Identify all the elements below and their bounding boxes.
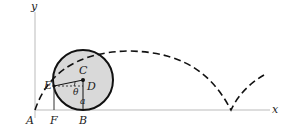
label-theta: θ [73, 87, 79, 97]
label-x-axis: x [272, 103, 279, 116]
label-d-point: D [86, 80, 96, 93]
label-f-point: F [49, 114, 58, 127]
cycloid-diagram: y x A F B C D E θ a [0, 0, 286, 130]
label-a-point: A [25, 114, 34, 127]
label-radius-a: a [80, 96, 85, 106]
point-e [53, 85, 56, 88]
label-y-axis: y [30, 0, 38, 13]
label-b-point: B [78, 114, 87, 127]
label-c-point: C [79, 64, 88, 77]
point-c [81, 78, 85, 82]
label-e-point: E [43, 79, 52, 92]
